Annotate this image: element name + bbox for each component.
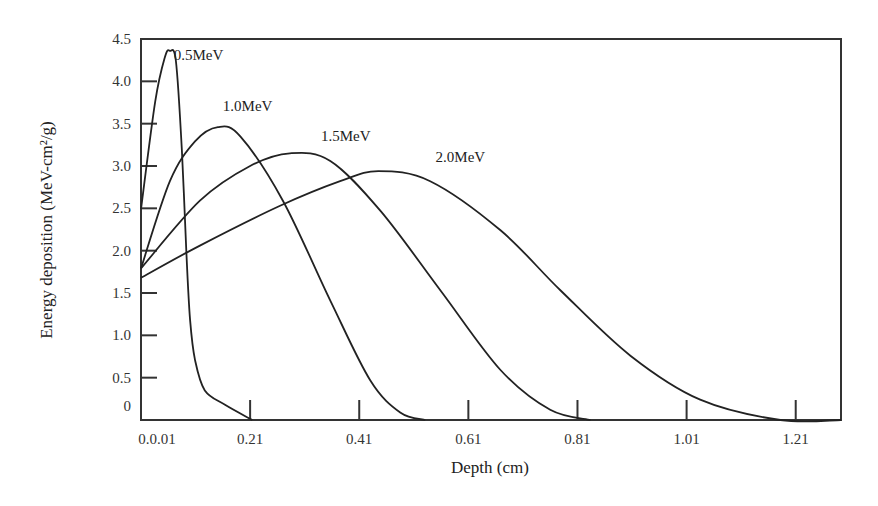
x-axis-ticks: 0.0.010.210.410.610.811.011.21 bbox=[138, 400, 809, 447]
x-tick-label: 1.01 bbox=[673, 431, 699, 447]
x-tick-label: 0.21 bbox=[237, 431, 263, 447]
energy-deposition-chart: 00.51.01.52.02.53.03.54.04.5 0.0.010.210… bbox=[0, 0, 878, 506]
y-tick-label: 3.0 bbox=[112, 158, 131, 174]
series-line-2-0mev bbox=[141, 171, 841, 421]
series-label: 2.0MeV bbox=[436, 149, 486, 165]
y-tick-label: 4.5 bbox=[112, 31, 131, 47]
y-tick-label: 1.0 bbox=[112, 327, 131, 343]
x-tick-label: 0.81 bbox=[564, 431, 590, 447]
x-tick-label: 0.41 bbox=[346, 431, 372, 447]
y-tick-label: 2.5 bbox=[112, 200, 131, 216]
y-axis-title: Energy deposition (MeV-cm²/g) bbox=[37, 121, 56, 339]
y-tick-label: 4.0 bbox=[112, 73, 131, 89]
series-label: 0.5MeV bbox=[174, 47, 224, 63]
x-tick-label: 0.0.01 bbox=[138, 431, 176, 447]
plot-frame bbox=[141, 39, 841, 420]
y-axis-ticks: 00.51.01.52.02.53.03.54.04.5 bbox=[112, 31, 157, 414]
series-label: 1.0MeV bbox=[223, 98, 273, 114]
series-label: 1.5MeV bbox=[321, 128, 371, 144]
x-tick-label: 0.61 bbox=[455, 431, 481, 447]
x-tick-label: 1.21 bbox=[783, 431, 809, 447]
y-tick-label: 0.5 bbox=[112, 370, 131, 386]
y-tick-label: 0 bbox=[124, 398, 132, 414]
x-axis-title: Depth (cm) bbox=[451, 458, 529, 477]
y-tick-label: 3.5 bbox=[112, 116, 131, 132]
y-tick-label: 1.5 bbox=[112, 285, 131, 301]
y-tick-label: 2.0 bbox=[112, 243, 131, 259]
series-labels: 0.5MeV1.0MeV1.5MeV2.0MeV bbox=[174, 47, 486, 165]
series-line-1-5mev bbox=[141, 153, 591, 420]
plot-border bbox=[141, 39, 841, 420]
